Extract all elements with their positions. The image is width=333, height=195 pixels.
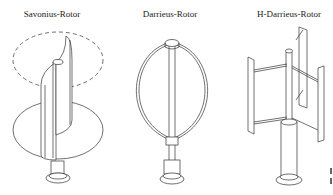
- darrieus-rotor: [136, 40, 207, 185]
- wind-rotor-diagram: Savonius-Rotor Darrieus-Rotor H-Darrieus…: [0, 0, 333, 195]
- h-darrieus-rotor: [248, 27, 331, 185]
- savonius-rotor: [13, 32, 103, 183]
